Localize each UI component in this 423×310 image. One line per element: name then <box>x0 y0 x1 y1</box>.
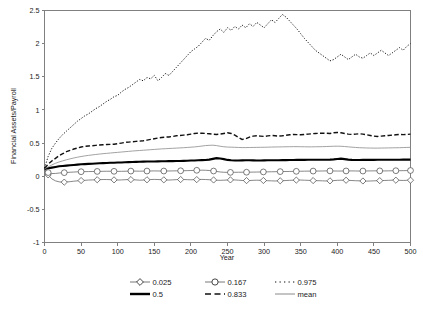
x-tick-label: 200 <box>185 247 197 256</box>
legend-label: mean <box>298 290 317 299</box>
y-tick-label: -0.5 <box>27 205 39 214</box>
x-axis-title: Year <box>220 253 235 262</box>
y-tick-label: 2.5 <box>30 6 40 15</box>
y-tick-label: -1 <box>33 238 39 247</box>
x-tick-label: 100 <box>112 247 124 256</box>
y-tick-label: 0.5 <box>30 139 40 148</box>
y-tick-label: 1 <box>36 106 40 115</box>
x-tick-label: 300 <box>258 247 270 256</box>
data-point-marker-circle <box>94 169 100 175</box>
data-point-marker-circle <box>377 168 383 174</box>
x-tick-label: 150 <box>148 247 160 256</box>
y-axis-title: Financial Assets/Payroll <box>9 88 18 164</box>
data-point-marker-circle <box>194 167 200 173</box>
data-point-marker-circle <box>178 168 184 174</box>
x-tick-label: 0 <box>43 247 47 256</box>
legend-label: 0.833 <box>228 290 247 299</box>
data-point-marker-circle <box>211 168 217 174</box>
data-point-marker-circle <box>277 169 283 175</box>
data-point-marker-circle <box>78 169 84 175</box>
data-point-marker-circle <box>128 168 134 174</box>
data-point-marker-circle <box>310 168 316 174</box>
data-point-marker-circle <box>144 168 150 174</box>
data-point-marker-circle <box>293 168 299 174</box>
x-tick-label: 400 <box>331 247 343 256</box>
data-point-marker-circle <box>161 168 167 174</box>
data-point-marker-circle <box>327 168 333 174</box>
data-point-marker-circle <box>45 170 51 176</box>
data-point-marker-circle <box>111 168 117 174</box>
chart-background <box>0 0 423 310</box>
data-point-marker-circle <box>244 169 250 175</box>
x-tick-label: 500 <box>405 247 417 256</box>
y-tick-label: 0 <box>36 172 40 181</box>
chart-figure: Financial Assets/Payroll -1-0.500.511.52… <box>0 0 423 310</box>
data-point-marker-circle <box>228 169 234 175</box>
data-point-marker-circle <box>408 168 414 174</box>
legend-label: 0.975 <box>298 278 317 287</box>
y-tick-label: 2 <box>36 39 40 48</box>
data-point-marker-circle <box>360 168 366 174</box>
x-tick-label: 50 <box>77 247 85 256</box>
x-tick-label: 350 <box>295 247 307 256</box>
data-point-marker-circle <box>393 168 399 174</box>
x-tick-label: 450 <box>368 247 380 256</box>
data-point-marker-circle <box>343 168 349 174</box>
data-point-marker-circle <box>260 169 266 175</box>
y-tick-label: 1.5 <box>30 72 40 81</box>
data-point-marker-circle <box>61 170 67 176</box>
legend-label: 0.5 <box>153 290 164 299</box>
legend-label: 0.167 <box>228 278 247 287</box>
financial-assets-payroll-chart: Financial Assets/Payroll -1-0.500.511.52… <box>0 0 423 310</box>
legend-label: 0.025 <box>153 278 172 287</box>
